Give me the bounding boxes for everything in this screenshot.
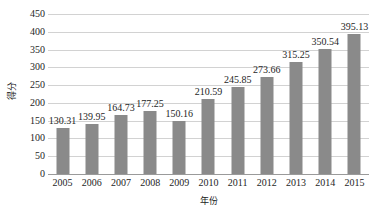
bar-value-label: 139.95 <box>78 112 106 122</box>
bar[interactable] <box>348 34 361 174</box>
x-axis-tick-label: 2013 <box>286 178 306 188</box>
y-axis-title-label: 得分 <box>5 81 18 99</box>
bar-value-label: 273.66 <box>253 65 281 75</box>
axis-baseline <box>48 174 369 175</box>
bar[interactable] <box>290 62 303 174</box>
bar[interactable] <box>260 77 273 174</box>
bar-value-label: 177.25 <box>136 99 164 109</box>
bar-value-label: 164.73 <box>107 103 135 113</box>
x-axis-tick-label: 2012 <box>257 178 277 188</box>
bar-value-label: 395.13 <box>341 22 369 32</box>
bar[interactable] <box>173 121 186 174</box>
x-axis-title: 年份 <box>48 194 369 207</box>
bar-group[interactable]: 395.13 <box>340 14 369 174</box>
y-axis-tick-label: 450 <box>18 9 45 19</box>
y-axis-tick-label: 350 <box>18 45 45 55</box>
bar-group[interactable]: 245.85 <box>223 14 252 174</box>
y-axis-tick-labels: 450400350300250200150100500 <box>18 14 45 174</box>
y-axis-tick-label: 250 <box>18 80 45 90</box>
bar-value-label: 350.54 <box>311 37 339 47</box>
bar-group[interactable]: 350.54 <box>311 14 340 174</box>
y-axis-tick-label: 0 <box>18 169 45 179</box>
y-axis-tick-label: 50 <box>18 151 45 161</box>
bar-group[interactable]: 164.73 <box>106 14 135 174</box>
bar-value-label: 315.25 <box>282 50 310 60</box>
bar-group[interactable]: 177.25 <box>136 14 165 174</box>
y-axis-tick-label: 150 <box>18 116 45 126</box>
bar[interactable] <box>319 49 332 174</box>
bar[interactable] <box>114 115 127 174</box>
bar[interactable] <box>144 111 157 174</box>
bar-group[interactable]: 139.95 <box>77 14 106 174</box>
x-axis-tick-label: 2009 <box>169 178 189 188</box>
bar[interactable] <box>85 124 98 174</box>
x-axis-tick-labels: 2005200620072008200920102011201220132014… <box>48 178 369 192</box>
plot-area: 130.31139.95164.73177.25150.16210.59245.… <box>48 14 369 174</box>
bar-group[interactable]: 130.31 <box>48 14 77 174</box>
bars-layer: 130.31139.95164.73177.25150.16210.59245.… <box>48 14 369 174</box>
bar-value-label: 245.85 <box>224 75 252 85</box>
bar[interactable] <box>202 99 215 174</box>
bar[interactable] <box>56 128 69 174</box>
x-axis-tick-label: 2006 <box>82 178 102 188</box>
x-axis-tick-label: 2010 <box>199 178 219 188</box>
bar-value-label: 210.59 <box>195 87 223 97</box>
bar[interactable] <box>231 87 244 174</box>
x-axis-tick-label: 2015 <box>344 178 364 188</box>
x-axis-tick-label: 2014 <box>315 178 335 188</box>
bar-group[interactable]: 315.25 <box>281 14 310 174</box>
y-axis-tick-label: 200 <box>18 98 45 108</box>
bar-value-label: 150.16 <box>166 109 194 119</box>
x-axis-tick-label: 2011 <box>228 178 248 188</box>
x-axis-tick-label: 2008 <box>140 178 160 188</box>
y-axis-tick-label: 300 <box>18 62 45 72</box>
x-axis-tick-label: 2007 <box>111 178 131 188</box>
bar-group[interactable]: 273.66 <box>252 14 281 174</box>
bar-chart: 得分 450400350300250200150100500 130.31139… <box>0 0 381 221</box>
bar-group[interactable]: 210.59 <box>194 14 223 174</box>
bar-group[interactable]: 150.16 <box>165 14 194 174</box>
x-axis-tick-label: 2005 <box>53 178 73 188</box>
y-axis-tick-label: 400 <box>18 27 45 37</box>
bar-value-label: 130.31 <box>49 116 77 126</box>
y-axis-tick-label: 100 <box>18 133 45 143</box>
